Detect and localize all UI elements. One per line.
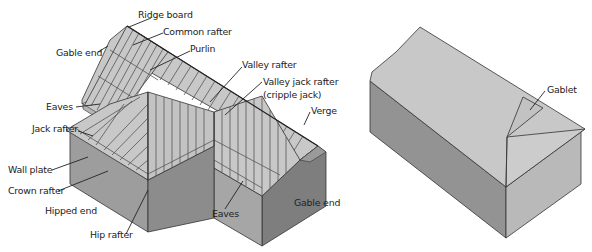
label-verge: Verge xyxy=(311,105,337,116)
label-gablet: Gablet xyxy=(547,84,577,95)
label-hipped-end: Hipped end xyxy=(45,205,97,216)
label-gable-end-top: Gable end xyxy=(56,47,102,58)
roof-diagrams: Ridge board Common rafter Gable end Purl… xyxy=(0,0,592,252)
label-crown-rafter: Crown rafter xyxy=(8,185,64,196)
gablet-roof-diagram: Gablet xyxy=(370,27,585,238)
label-hip-rafter: Hip rafter xyxy=(90,229,133,240)
label-valley-rafter: Valley rafter xyxy=(242,59,297,70)
label-cripple-jack: (cripple jack) xyxy=(263,89,321,100)
label-eaves-top: Eaves xyxy=(46,101,73,112)
label-valley-jack-rafter: Valley jack rafter xyxy=(263,76,339,87)
label-jack-rafter: Jack rafter xyxy=(31,123,78,134)
label-wall-plate: Wall plate xyxy=(8,164,53,175)
figure: Ridge board Common rafter Gable end Purl… xyxy=(0,0,592,252)
label-eaves-bottom: Eaves xyxy=(212,208,239,219)
roof-structure-diagram: Ridge board Common rafter Gable end Purl… xyxy=(8,9,340,246)
label-ridge-board: Ridge board xyxy=(138,9,193,20)
label-gable-end-bottom: Gable end xyxy=(294,197,340,208)
label-purlin: Purlin xyxy=(190,43,215,54)
label-common-rafter: Common rafter xyxy=(163,26,232,37)
